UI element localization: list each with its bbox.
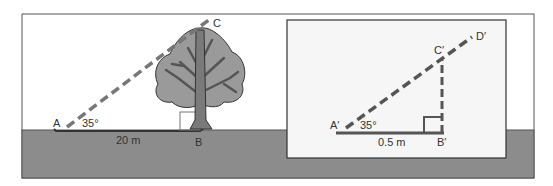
label-A: A — [53, 117, 61, 129]
label-distance-model: 0.5 m — [378, 136, 406, 148]
label-B-prime: B′ — [437, 136, 446, 148]
label-C: C — [213, 17, 221, 29]
similar-triangles-diagram: A 35° 20 m B C A′ 35° 0.5 m B′ C′ D′ — [0, 0, 553, 186]
label-A-prime: A′ — [330, 119, 339, 131]
label-D-prime: D′ — [476, 30, 486, 42]
label-B: B — [195, 136, 202, 148]
scale-model-panel: A′ 35° 0.5 m B′ C′ D′ — [287, 20, 506, 158]
label-distance-AB: 20 m — [116, 134, 140, 146]
label-angle-A-prime: 35° — [360, 119, 377, 131]
label-angle-A: 35° — [82, 117, 99, 129]
label-C-prime: C′ — [434, 44, 444, 56]
